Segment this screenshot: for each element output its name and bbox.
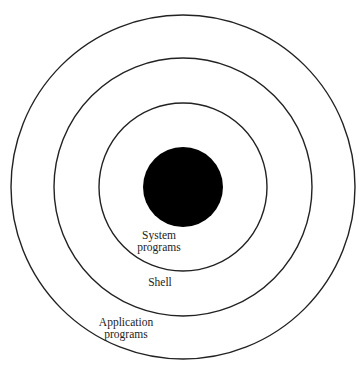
kernel-core bbox=[143, 147, 223, 227]
system-programs-label-line2: programs bbox=[129, 241, 189, 253]
shell-label: Shell bbox=[140, 276, 180, 288]
concentric-layers-diagram bbox=[0, 0, 359, 370]
application-programs-label: Application programs bbox=[86, 316, 166, 340]
application-programs-label-line2: programs bbox=[86, 328, 166, 340]
shell-label-line1: Shell bbox=[140, 276, 180, 288]
system-programs-label: System programs bbox=[129, 229, 189, 253]
system-programs-label-line1: System bbox=[129, 229, 189, 241]
application-programs-label-line1: Application bbox=[86, 316, 166, 328]
